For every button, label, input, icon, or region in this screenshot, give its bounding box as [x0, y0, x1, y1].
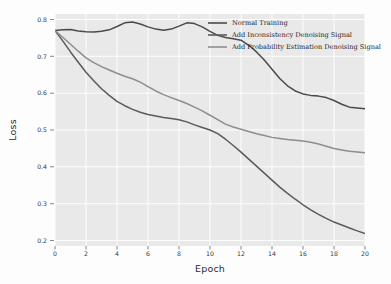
- x-axis-title: Epoch: [195, 263, 225, 274]
- legend-label-normal-training: Normal Training: [232, 19, 288, 27]
- x-tick-label: 20: [361, 250, 369, 257]
- loss-vs-epoch-line-chart: 0.8 0.7 0.6 0.5 0.4 0.3 0.2 0 2 4 6 8 10…: [0, 0, 391, 284]
- y-axis-title: Loss: [7, 119, 18, 141]
- x-tick-label: 10: [206, 250, 214, 257]
- x-tick-label: 18: [330, 250, 338, 257]
- legend-label-add-probability-estimation-denoising-signal: Add Probability Estimation Denoising Sig…: [231, 43, 381, 51]
- y-tick-label: 0.8: [37, 16, 47, 23]
- chart-figure: 0.8 0.7 0.6 0.5 0.4 0.3 0.2 0 2 4 6 8 10…: [0, 0, 391, 284]
- x-tick-label: 4: [115, 250, 119, 257]
- x-tick-label: 2: [84, 250, 88, 257]
- x-tick-label: 12: [237, 250, 245, 257]
- x-tick-label: 16: [299, 250, 307, 257]
- x-tick-label: 14: [268, 250, 276, 257]
- y-tick-label: 0.4: [37, 163, 47, 170]
- y-tick-label: 0.7: [37, 53, 47, 60]
- y-tick-label: 0.3: [37, 200, 47, 207]
- y-tick-label: 0.5: [37, 126, 47, 133]
- y-tick-label: 0.6: [37, 89, 47, 96]
- x-tick-label: 8: [177, 250, 181, 257]
- legend-label-add-inconsistency-denoising-signal: Add Inconsistency Denoising Signal: [231, 31, 352, 39]
- y-tick-label: 0.2: [37, 237, 47, 244]
- x-tick-label: 6: [146, 250, 150, 257]
- x-tick-label: 0: [53, 250, 57, 257]
